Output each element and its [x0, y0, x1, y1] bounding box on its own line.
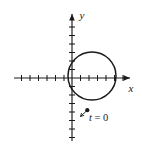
y-axis-label: y — [79, 9, 85, 21]
circle-curve — [68, 52, 116, 100]
start-point-label: t = 0 — [89, 112, 108, 123]
x-axis-label: x — [128, 82, 134, 94]
y-axis-arrowhead — [69, 14, 75, 21]
x-axis-arrowhead — [124, 75, 131, 81]
plot-canvas: x y t = 0 — [0, 0, 142, 144]
parametric-circle-figure: x y t = 0 — [0, 0, 142, 144]
start-point-label-value: = 0 — [92, 112, 108, 123]
